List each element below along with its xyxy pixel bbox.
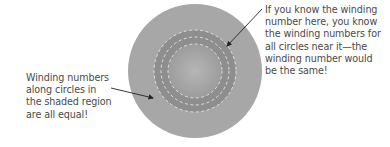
annotation-line: winding number would <box>265 53 381 65</box>
left-annotation: Winding numbers along circles in the sha… <box>26 72 112 121</box>
annotation-line: the shaded region <box>26 96 112 108</box>
annotation-line: be the same! <box>265 65 381 77</box>
annotation-line: the winding numbers for <box>265 28 381 40</box>
annotation-line: all circles near it—the <box>265 41 381 53</box>
annotation-line: If you know the winding <box>265 4 381 16</box>
right-annotation: If you know the winding number here, you… <box>265 4 381 77</box>
annotation-line: are all equal! <box>26 109 112 121</box>
annotation-line: number here, you know <box>265 16 381 28</box>
annotation-line: Winding numbers <box>26 72 112 84</box>
annotation-line: along circles in <box>26 84 112 96</box>
